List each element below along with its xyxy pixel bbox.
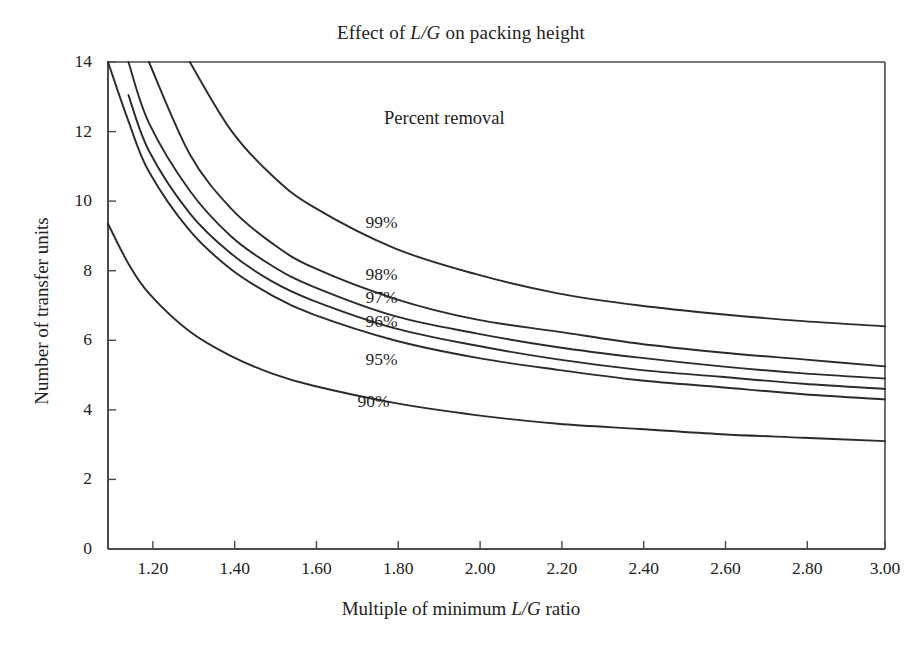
x-tick-label: 2.00 <box>445 558 515 579</box>
x-tick-label: 1.20 <box>118 558 188 579</box>
plot-area <box>0 0 922 645</box>
x-axis-label-suffix: ratio <box>541 598 581 619</box>
x-tick-label: 1.40 <box>200 558 270 579</box>
figure-container: Effect of L/G on packing height <box>0 0 922 645</box>
curve-99pct <box>190 62 885 326</box>
y-tick-label: 4 <box>52 399 92 420</box>
y-axis-label: Number of transfer units <box>31 81 53 541</box>
curve-98pct <box>149 62 885 366</box>
y-tick-label: 10 <box>52 190 92 211</box>
curve-96pct <box>128 95 885 389</box>
x-axis-label-italic: L/G <box>511 598 541 619</box>
y-tick-label: 14 <box>52 51 92 72</box>
curve-label-95pct: 95% <box>366 349 398 370</box>
x-tick-label: 1.80 <box>363 558 433 579</box>
y-tick-label: 2 <box>52 468 92 489</box>
curve-label-98pct: 98% <box>366 264 398 285</box>
y-tick-label: 6 <box>52 329 92 350</box>
x-tick-label: 1.60 <box>282 558 352 579</box>
y-tick-marks <box>108 62 116 549</box>
x-axis-label: Multiple of minimum L/G ratio <box>0 598 922 620</box>
y-tick-label: 0 <box>52 538 92 559</box>
curve-label-97pct: 97% <box>366 287 398 308</box>
axis-lines <box>108 62 885 549</box>
x-tick-label: 2.80 <box>772 558 842 579</box>
y-tick-label: 12 <box>52 121 92 142</box>
x-tick-label: 2.60 <box>691 558 761 579</box>
curve-label-99pct: 99% <box>366 212 398 233</box>
annotation-percent-removal: Percent removal <box>384 108 505 129</box>
x-tick-label: 3.00 <box>850 558 920 579</box>
y-tick-label: 8 <box>52 260 92 281</box>
x-tick-label: 2.40 <box>609 558 679 579</box>
x-tick-label: 2.20 <box>527 558 597 579</box>
curve-90pct <box>108 224 885 441</box>
curve-label-96pct: 96% <box>366 311 398 332</box>
x-tick-marks <box>153 541 885 549</box>
x-axis-label-prefix: Multiple of minimum <box>342 598 511 619</box>
curve-label-90pct: 90% <box>358 391 390 412</box>
